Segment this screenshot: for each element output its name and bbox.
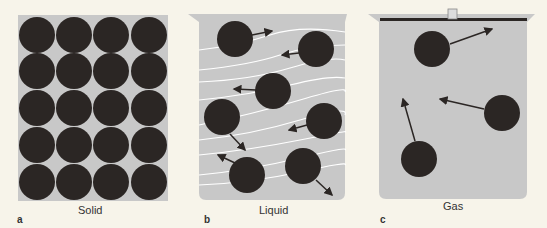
panel-a-label: a: [17, 214, 23, 225]
gas-panel: [368, 9, 535, 199]
solid-panel: [18, 15, 168, 201]
panel-c-label: c: [380, 214, 386, 225]
panel-b-label: b: [204, 214, 210, 225]
states-of-matter-diagram: [0, 0, 547, 228]
solid-caption: Solid: [78, 204, 102, 216]
liquid-panel: [188, 14, 347, 200]
liquid-caption: Liquid: [259, 204, 288, 216]
gas-caption: Gas: [443, 200, 463, 212]
